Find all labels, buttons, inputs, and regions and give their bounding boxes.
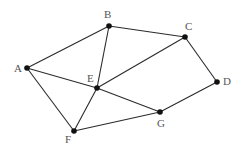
node-label-b: B — [104, 8, 111, 20]
edge-b-c — [109, 26, 185, 37]
graph-edges — [27, 26, 217, 131]
node-e — [94, 85, 100, 91]
node-label-f: F — [65, 133, 71, 145]
edge-e-g — [97, 88, 160, 112]
edge-c-e — [97, 37, 185, 88]
edge-c-d — [185, 37, 217, 82]
node-c — [182, 34, 188, 40]
graph-labels: ABCDEFG — [14, 8, 231, 145]
graph-nodes — [24, 23, 220, 134]
node-b — [106, 23, 112, 29]
graph-diagram: ABCDEFG — [0, 0, 244, 150]
edge-e-f — [74, 88, 97, 131]
node-g — [157, 109, 163, 115]
node-label-c: C — [185, 20, 192, 32]
node-label-d: D — [223, 75, 231, 87]
edge-a-f — [27, 68, 74, 131]
edge-d-g — [160, 82, 217, 112]
edge-a-b — [27, 26, 109, 68]
node-label-g: G — [157, 117, 165, 129]
edge-f-g — [74, 112, 160, 131]
node-label-e: E — [87, 72, 94, 84]
node-a — [24, 65, 30, 71]
node-d — [214, 79, 220, 85]
node-label-a: A — [14, 62, 22, 74]
edge-b-e — [97, 26, 109, 88]
node-f — [71, 128, 77, 134]
